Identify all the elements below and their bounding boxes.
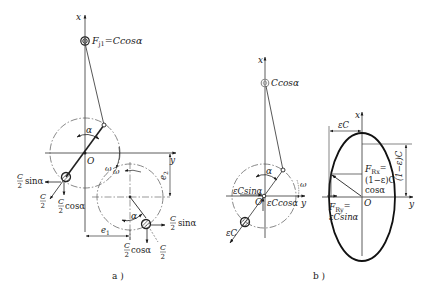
svg-text:cosα: cosα — [65, 201, 85, 211]
svg-text:2: 2 — [171, 224, 175, 232]
label-ec: εC — [226, 228, 238, 238]
connecting-rod-b — [266, 86, 283, 170]
label-fry: FRy= εCsinα — [328, 201, 359, 222]
y-axis-label-b: y — [300, 198, 307, 208]
dim-1ec-label: (1−ε)C — [394, 150, 404, 181]
top-mass-label-a: Fj1=Ccosα — [91, 35, 143, 48]
label-ecsin: εCsinα — [233, 186, 263, 196]
origin-label-b: O — [255, 197, 263, 207]
dim-e1-label: e1 — [101, 225, 110, 236]
dim-ec-label: εC — [338, 120, 350, 130]
counterweight-2 — [142, 220, 151, 229]
counterweight-b — [241, 218, 250, 227]
x-axis-label-ellipse: x — [355, 110, 360, 120]
label-c2-cos-1: C 2 cosα — [58, 197, 85, 215]
origin-label-a: O — [87, 156, 95, 166]
crank-pin-a — [102, 123, 106, 127]
origin-point-a — [84, 152, 87, 155]
connecting-rod-a — [85, 43, 104, 125]
svg-text:2: 2 — [41, 202, 45, 210]
omega-arrow-2 — [125, 170, 141, 172]
svg-text:cosα: cosα — [131, 245, 151, 255]
svg-text:C: C — [170, 214, 176, 223]
angle-label-b: α — [266, 166, 272, 176]
origin-label-ellipse: O — [364, 198, 372, 208]
angle-label-2: α — [131, 211, 137, 221]
x-axis-label-a: x — [76, 12, 81, 22]
svg-text:C: C — [160, 243, 166, 252]
svg-text:(1−ε)C: (1−ε)C — [365, 175, 395, 185]
svg-text:sinα: sinα — [178, 218, 197, 228]
label-frx: FRx= (1−ε)C cosα — [364, 163, 395, 195]
svg-text:cosα: cosα — [365, 185, 385, 195]
svg-text:2: 2 — [18, 182, 22, 190]
top-mass-label-b: Ccosα — [271, 78, 299, 88]
label-c2-cos-2: C 2 cosα — [124, 241, 151, 259]
label-c2-2: C 2 — [160, 243, 166, 261]
svg-text:2: 2 — [59, 207, 63, 215]
svg-text:C: C — [58, 197, 64, 206]
force-c-line-2 — [150, 229, 158, 242]
svg-text:sinα: sinα — [25, 176, 44, 186]
svg-text:2: 2 — [125, 251, 129, 259]
diagram-canvas: x Fj1=Ccosα y O α ω — [0, 0, 431, 296]
svg-text:C: C — [124, 241, 130, 250]
omega-label-2: ω — [113, 167, 120, 176]
origin-point-b — [262, 194, 266, 198]
omega-arrow-b — [297, 180, 299, 198]
resultant-vector — [332, 175, 361, 196]
svg-text:2: 2 — [161, 253, 165, 261]
figure-a: x Fj1=Ccosα y O α ω — [17, 12, 197, 281]
x-axis-label-b: x — [258, 55, 263, 65]
angle-label-a: α — [86, 125, 92, 135]
dim-e2-label: e2 — [158, 171, 169, 180]
omega-label-a: ω — [105, 164, 112, 173]
omega-arrow-a — [116, 147, 120, 168]
figure-b: x Ccosα y O α ω εCsinα εCcosα εC b ) — [226, 55, 325, 281]
y-axis-label-ellipse: y — [408, 199, 415, 209]
svg-text:C: C — [40, 192, 46, 201]
label-c2-sin-1: C 2 sinα — [17, 172, 44, 190]
caption-a: a ) — [112, 271, 124, 281]
force-ellipse-diagram: x y εC (1−ε)C FRx= (1−ε)C cosα O FRy= εC… — [322, 110, 415, 261]
counterweight-1 — [62, 173, 71, 182]
crank-pin-b — [281, 168, 285, 172]
svg-text:εCsinα: εCsinα — [329, 212, 359, 222]
svg-text:C: C — [17, 172, 23, 181]
omega-label-b: ω — [300, 180, 307, 189]
label-c2-sin-2: C 2 sinα — [170, 214, 197, 232]
label-eccos: εCcosα — [267, 198, 298, 208]
caption-b: b ) — [313, 271, 325, 281]
label-c2-1: C 2 — [40, 192, 46, 210]
